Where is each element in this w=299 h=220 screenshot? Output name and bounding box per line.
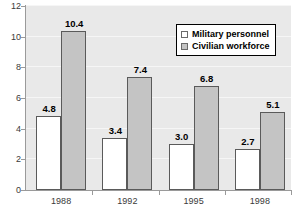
x-axis-tick-mark: [225, 191, 226, 195]
x-axis-tick-label-1988: 1988: [31, 196, 91, 206]
y-axis-tick-label: 4: [1, 125, 21, 134]
y-axis-line: [25, 5, 26, 191]
bar-1992-series-0[interactable]: [102, 138, 127, 190]
x-axis-tick-mark: [92, 191, 93, 195]
bar-group-1998: 2.75.1: [235, 6, 285, 190]
bar-group-1992: 3.47.4: [102, 6, 152, 190]
y-axis-tick-label: 6: [1, 94, 21, 103]
y-axis-tick-mark: [21, 6, 25, 7]
x-axis-tick-mark: [159, 191, 160, 195]
y-axis-ticks: 024681012: [0, 0, 21, 220]
y-axis-tick-mark: [21, 67, 25, 68]
y-axis-tick-mark: [21, 98, 25, 99]
y-axis-tick-label: 0: [1, 186, 21, 195]
bar-value-label: 6.8: [190, 74, 224, 84]
bar-1995-series-1[interactable]: [194, 86, 219, 190]
bar-1992-series-1[interactable]: [127, 77, 152, 190]
bar-1988-series-0[interactable]: [36, 116, 61, 190]
bar-value-label: 7.4: [123, 65, 157, 75]
y-axis-tick-label: 10: [1, 33, 21, 42]
x-axis-tick-mark: [291, 191, 292, 195]
bar-1998-series-1[interactable]: [260, 112, 285, 190]
bar-chart: 024681012 Military personnelCivilian wor…: [0, 0, 299, 220]
y-axis-tick-mark: [21, 190, 25, 191]
y-axis-tick-mark: [21, 159, 25, 160]
y-axis-tick-label: 12: [1, 2, 21, 11]
bar-value-label: 5.1: [256, 100, 290, 110]
bar-1998-series-0[interactable]: [235, 149, 260, 190]
bar-group-1995: 3.06.8: [169, 6, 219, 190]
bar-1988-series-1[interactable]: [61, 31, 86, 190]
bar-1995-series-0[interactable]: [169, 144, 194, 190]
y-axis-tick-mark: [21, 37, 25, 38]
x-axis-tick-label-1998: 1998: [230, 196, 290, 206]
x-axis-tick-label-1995: 1995: [164, 196, 224, 206]
y-axis-tick-label: 8: [1, 63, 21, 72]
bar-value-label: 10.4: [57, 19, 91, 29]
y-axis-tick-label: 2: [1, 155, 21, 164]
bar-group-1988: 4.810.4: [36, 6, 86, 190]
x-axis-tick-label-1992: 1992: [97, 196, 157, 206]
y-axis-tick-mark: [21, 129, 25, 130]
